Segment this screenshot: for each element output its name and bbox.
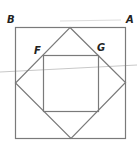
diamond-square [16, 28, 126, 139]
faint-crossing-line [0, 65, 137, 72]
label-f: F [34, 45, 41, 56]
geometry-diagram: B A F G [0, 0, 137, 145]
label-a: A [125, 14, 134, 25]
label-b: B [7, 14, 15, 25]
label-g: G [97, 42, 105, 53]
faint-top-line [60, 20, 121, 21]
inner-square [44, 56, 99, 112]
outer-square [16, 28, 126, 139]
